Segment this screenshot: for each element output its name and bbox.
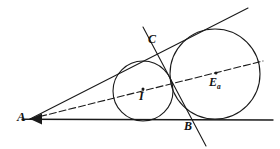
geometry-canvas [0,0,280,149]
point-label-ea-base: E [209,75,217,89]
geometry-figure: A B C I Ea [0,0,280,149]
point-label-i: I [139,90,144,102]
point-label-c: C [148,33,156,45]
angle-bisector-dashed [30,61,263,119]
point-label-b: B [184,120,192,132]
base-line [22,119,273,120]
point-label-a: A [17,110,26,123]
point-label-ea-subscript: a [217,82,221,91]
point-label-ea: Ea [209,76,221,91]
vertex-arrowhead-icon [30,114,42,125]
